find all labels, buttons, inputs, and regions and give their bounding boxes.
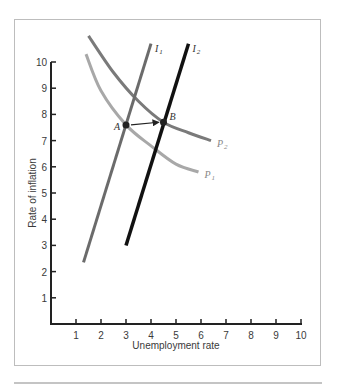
shift-arrow — [131, 122, 159, 125]
x-tick-label: 1 — [73, 330, 79, 341]
x-tick-label: 3 — [123, 330, 129, 341]
y-tick-label: 1 — [41, 293, 47, 304]
curve-label-i1: I1 — [154, 43, 163, 56]
curve-label-p1: P1 — [204, 169, 216, 182]
x-tick-label: 10 — [295, 330, 307, 341]
x-axis-title: Unemployment rate — [132, 340, 220, 351]
y-tick-label: 7 — [41, 136, 47, 147]
y-tick-label: 3 — [41, 240, 47, 251]
point-a — [123, 121, 130, 128]
point-b — [160, 119, 167, 126]
y-tick-label: 10 — [36, 57, 48, 68]
point-label-b: B — [170, 111, 176, 122]
y-tick-label: 5 — [41, 188, 47, 199]
y-axis-title: Rate of inflation — [27, 158, 38, 228]
curve-label-p2: P2 — [216, 138, 228, 151]
point-label-a: A — [113, 121, 121, 132]
axes — [50, 62, 302, 324]
x-tick-label: 9 — [273, 330, 279, 341]
x-tick-label: 2 — [98, 330, 104, 341]
y-tick-label: 4 — [41, 214, 47, 225]
y-tick-label: 9 — [41, 83, 47, 94]
curve-label-i2: I2 — [192, 43, 201, 56]
y-tick-label: 2 — [41, 267, 47, 278]
curve-i2 — [126, 44, 189, 246]
phillips-curve-chart: P1P2I1I2 1234567891012345678910 Unemploy… — [0, 0, 337, 384]
y-tick-label: 8 — [41, 109, 47, 120]
x-tick-label: 8 — [248, 330, 254, 341]
series-layer: P1P2I1I2 — [84, 36, 229, 263]
y-tick-label: 6 — [41, 162, 47, 173]
x-tick-label: 7 — [223, 330, 229, 341]
